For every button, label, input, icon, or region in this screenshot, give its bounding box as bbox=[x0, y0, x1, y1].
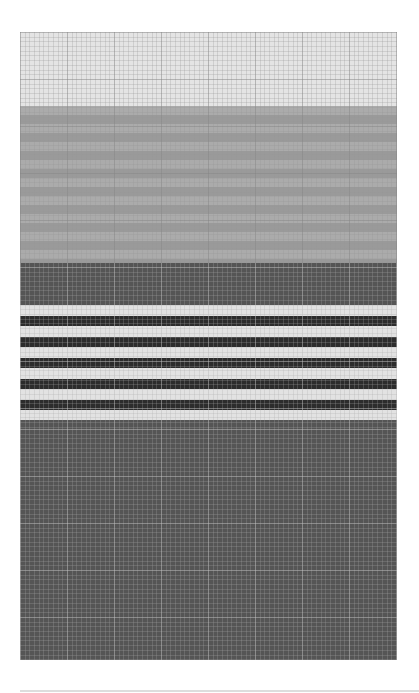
band-dark-gray-bottom bbox=[20, 420, 397, 660]
band-stripe-light-5 bbox=[20, 389, 397, 400]
band-mid-gray bbox=[20, 106, 397, 263]
band-stripe-light-1 bbox=[20, 305, 397, 316]
band-stripe-light-6 bbox=[20, 410, 397, 420]
footer-divider bbox=[20, 690, 419, 692]
band-stripe-dark-2 bbox=[20, 337, 397, 348]
pattern-chart bbox=[20, 32, 397, 660]
band-stripe-dark-1 bbox=[20, 316, 397, 327]
band-stripe-light-4 bbox=[20, 368, 397, 379]
band-stripe-dark-4 bbox=[20, 379, 397, 390]
band-stripe-dark-5 bbox=[20, 400, 397, 411]
band-stripe-light-2 bbox=[20, 326, 397, 337]
band-light-gray bbox=[20, 32, 397, 106]
band-stripe-dark-3 bbox=[20, 358, 397, 369]
band-stripe-light-3 bbox=[20, 347, 397, 358]
band-dark-gray bbox=[20, 263, 397, 305]
